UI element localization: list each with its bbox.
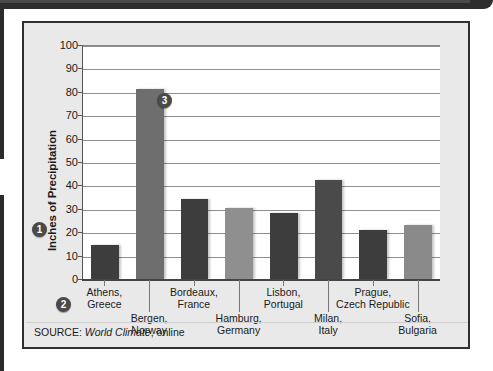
category-label: Sofia,Bulgaria <box>363 313 473 336</box>
callout-marker-1[interactable]: 1 <box>32 222 47 237</box>
bar-slot <box>395 46 440 279</box>
category-leader-line <box>104 280 105 286</box>
bar[interactable] <box>359 230 387 279</box>
bar[interactable] <box>270 213 298 279</box>
bar[interactable] <box>136 89 164 279</box>
source-label: SOURCE: <box>34 326 82 338</box>
bar[interactable] <box>225 208 253 279</box>
bar[interactable] <box>181 199 209 279</box>
y-tick-label: 10 <box>44 250 78 262</box>
bar-slot <box>128 46 173 279</box>
category-leader-line <box>194 280 195 286</box>
bar[interactable] <box>404 225 432 279</box>
top-header-bar <box>0 0 493 9</box>
chart-figure: Inches of Precipitation 1009080706050403… <box>22 21 470 349</box>
category-label-line1: Athens, <box>87 286 123 298</box>
category-label-line1: Lisbon, <box>266 286 300 298</box>
category-label-line2: Czech Republic <box>318 299 428 311</box>
bar-slot <box>262 46 307 279</box>
category-label-line1: Prague, <box>354 286 391 298</box>
header-bar-highlight <box>0 0 470 3</box>
bar-slot <box>217 46 262 279</box>
plot-area <box>82 45 440 279</box>
left-edge-strip <box>0 9 4 371</box>
y-tick-label: 50 <box>44 156 78 168</box>
category-label-line1: Bordeaux, <box>170 286 218 298</box>
bar-slot <box>83 46 128 279</box>
bar-slot <box>306 46 351 279</box>
callout-marker-2[interactable]: 2 <box>56 297 71 312</box>
bar-slot <box>172 46 217 279</box>
source-line: SOURCE: World Climate, online <box>34 326 185 338</box>
category-leader-line <box>283 280 284 286</box>
bar-slot <box>351 46 396 279</box>
callout-marker-3[interactable]: 3 <box>157 93 172 108</box>
y-tick-label: 70 <box>44 109 78 121</box>
category-label: Prague,Czech Republic <box>318 287 428 310</box>
source-work-title: World Climate <box>85 326 151 338</box>
y-tick-label: 90 <box>44 62 78 74</box>
bar[interactable] <box>315 180 343 279</box>
y-tick-label: 80 <box>44 86 78 98</box>
source-suffix: , online <box>151 326 185 338</box>
bar-series <box>83 46 440 279</box>
bar[interactable] <box>91 245 119 279</box>
y-tick-label: 100 <box>44 39 78 51</box>
left-edge-strip-gap <box>0 159 4 195</box>
y-tick-label: 20 <box>44 226 78 238</box>
category-leader-line <box>418 280 419 312</box>
y-tick-label: 0 <box>44 273 78 285</box>
y-axis-tick-labels: 1009080706050403020100 <box>40 45 78 279</box>
category-leader-line <box>373 280 374 286</box>
y-tick-label: 30 <box>44 203 78 215</box>
y-tick-label: 40 <box>44 179 78 191</box>
category-label-line2: Bulgaria <box>363 325 473 337</box>
y-tick-label: 60 <box>44 133 78 145</box>
source-divider <box>26 322 468 323</box>
